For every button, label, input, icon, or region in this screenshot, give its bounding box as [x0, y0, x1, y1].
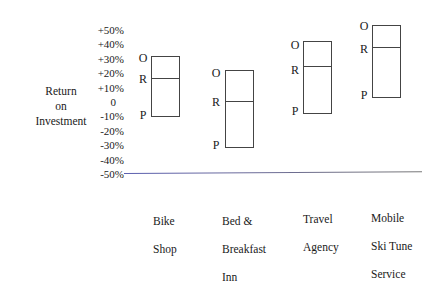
y-tick: +30%: [86, 53, 124, 65]
range-box: [151, 56, 180, 117]
realistic-marker: R: [137, 73, 149, 85]
y-tick: -10%: [86, 110, 124, 122]
realistic-marker: R: [358, 43, 370, 55]
category-label-line: Ski Tune: [371, 239, 412, 253]
y-tick: +40%: [86, 38, 124, 50]
y-tick: -50%: [86, 168, 124, 180]
category-label-line: Breakfast: [222, 242, 266, 256]
y-tick: +20%: [86, 67, 124, 79]
range-box: [225, 70, 254, 148]
y-tick: +10%: [86, 82, 124, 94]
category-label-line: Bike: [153, 214, 177, 228]
realistic-line: [152, 78, 179, 79]
category-label-mobile-ski-tune-service: Mobile Ski Tune Service: [371, 197, 412, 285]
y-tick: +50%: [86, 24, 124, 36]
pessimistic-marker: P: [358, 89, 370, 101]
category-label-travel-agency: Travel Agency: [303, 198, 339, 268]
y-tick: -30%: [86, 139, 124, 151]
category-label-line: Shop: [153, 242, 177, 256]
y-tick: -40%: [86, 154, 124, 166]
optimistic-marker: O: [289, 39, 301, 51]
optimistic-marker: O: [210, 67, 222, 79]
category-label-line: Bed &: [222, 214, 266, 228]
pessimistic-marker: P: [289, 105, 301, 117]
range-box: [372, 25, 401, 98]
realistic-marker: R: [210, 96, 222, 108]
category-label-line: Mobile: [371, 211, 412, 225]
pessimistic-marker: P: [210, 139, 222, 151]
category-label-line: Agency: [303, 240, 339, 254]
optimistic-marker: O: [137, 52, 149, 64]
category-label-line: Service: [371, 267, 412, 281]
y-tick: -20%: [86, 125, 124, 137]
category-label-line: Travel: [303, 212, 339, 226]
pessimistic-marker: P: [137, 109, 149, 121]
category-label-bike-shop: Bike Shop: [153, 200, 177, 270]
baseline-axis: [124, 171, 422, 174]
realistic-line: [304, 66, 331, 67]
category-label-line: Inn: [222, 270, 266, 284]
y-tick: 0: [86, 96, 116, 108]
realistic-marker: R: [289, 64, 301, 76]
range-box: [303, 41, 332, 114]
realistic-line: [373, 47, 400, 48]
optimistic-marker: O: [358, 20, 370, 32]
category-label-bed-breakfast-inn: Bed & Breakfast Inn: [222, 200, 266, 285]
realistic-line: [226, 101, 253, 102]
